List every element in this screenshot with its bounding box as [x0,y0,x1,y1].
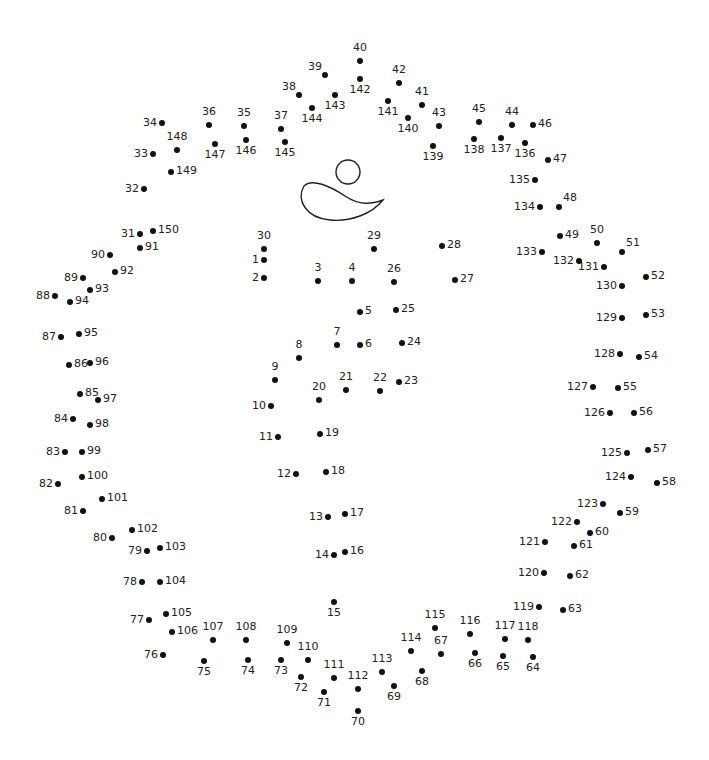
dot-116[interactable] [467,631,473,637]
dot-137[interactable] [498,135,504,141]
dot-47[interactable] [545,157,551,163]
dot-145[interactable] [282,139,288,145]
dot-45[interactable] [476,119,482,125]
dot-108[interactable] [243,637,249,643]
dot-8[interactable] [296,355,302,361]
dot-139[interactable] [430,143,436,149]
dot-5[interactable] [357,309,363,315]
dot-74[interactable] [245,657,251,663]
dot-63[interactable] [560,607,566,613]
dot-83[interactable] [62,449,68,455]
dot-56[interactable] [631,410,637,416]
dot-86[interactable] [66,362,72,368]
dot-13[interactable] [325,514,331,520]
dot-38[interactable] [296,92,302,98]
dot-122[interactable] [574,519,580,525]
dot-123[interactable] [600,501,606,507]
dot-141[interactable] [385,98,391,104]
dot-11[interactable] [275,434,281,440]
dot-148[interactable] [174,147,180,153]
dot-110[interactable] [305,657,311,663]
dot-115[interactable] [432,625,438,631]
dot-138[interactable] [471,136,477,142]
dot-55[interactable] [615,385,621,391]
dot-14[interactable] [331,552,337,558]
dot-121[interactable] [542,539,548,545]
dot-134[interactable] [537,204,543,210]
dot-109[interactable] [284,640,290,646]
dot-16[interactable] [342,549,348,555]
dot-50[interactable] [594,240,600,246]
dot-117[interactable] [502,636,508,642]
dot-59[interactable] [617,510,623,516]
dot-114[interactable] [408,648,414,654]
dot-77[interactable] [146,617,152,623]
dot-10[interactable] [268,403,274,409]
dot-27[interactable] [452,277,458,283]
dot-89[interactable] [80,275,86,281]
dot-71[interactable] [321,689,327,695]
dot-124[interactable] [628,474,634,480]
dot-149[interactable] [168,169,174,175]
dot-15[interactable] [331,599,337,605]
dot-85[interactable] [77,391,83,397]
dot-70[interactable] [355,708,361,714]
dot-87[interactable] [58,334,64,340]
dot-96[interactable] [87,360,93,366]
dot-95[interactable] [76,331,82,337]
dot-57[interactable] [645,447,651,453]
dot-135[interactable] [532,177,538,183]
dot-143[interactable] [332,92,338,98]
dot-65[interactable] [500,653,506,659]
dot-3[interactable] [315,278,321,284]
dot-98[interactable] [87,422,93,428]
dot-91[interactable] [137,245,143,251]
dot-23[interactable] [396,379,402,385]
dot-82[interactable] [55,481,61,487]
dot-140[interactable] [405,115,411,121]
dot-147[interactable] [212,141,218,147]
dot-100[interactable] [79,474,85,480]
dot-58[interactable] [654,480,660,486]
dot-25[interactable] [393,307,399,313]
dot-41[interactable] [419,102,425,108]
dot-2[interactable] [261,275,267,281]
dot-61[interactable] [571,543,577,549]
dot-17[interactable] [342,511,348,517]
dot-49[interactable] [557,233,563,239]
dot-130[interactable] [619,283,625,289]
dot-52[interactable] [643,274,649,280]
dot-128[interactable] [617,351,623,357]
dot-111[interactable] [331,675,337,681]
dot-20[interactable] [316,397,322,403]
dot-101[interactable] [99,496,105,502]
dot-32[interactable] [141,186,147,192]
dot-4[interactable] [349,278,355,284]
dot-102[interactable] [129,527,135,533]
dot-84[interactable] [70,416,76,422]
dot-1[interactable] [261,257,267,263]
dot-129[interactable] [619,315,625,321]
dot-132[interactable] [576,258,582,264]
dot-106[interactable] [169,629,175,635]
dot-76[interactable] [160,652,166,658]
dot-113[interactable] [379,669,385,675]
dot-18[interactable] [323,469,329,475]
dot-7[interactable] [334,342,340,348]
dot-39[interactable] [322,72,328,78]
dot-99[interactable] [79,449,85,455]
dot-6[interactable] [357,342,363,348]
dot-78[interactable] [139,579,145,585]
dot-40[interactable] [357,58,363,64]
dot-119[interactable] [536,604,542,610]
dot-120[interactable] [541,570,547,576]
dot-69[interactable] [391,683,397,689]
dot-97[interactable] [95,397,101,403]
dot-28[interactable] [439,243,445,249]
dot-26[interactable] [391,279,397,285]
dot-90[interactable] [107,252,113,258]
dot-31[interactable] [137,231,143,237]
dot-103[interactable] [157,545,163,551]
dot-142[interactable] [357,76,363,82]
dot-21[interactable] [343,387,349,393]
